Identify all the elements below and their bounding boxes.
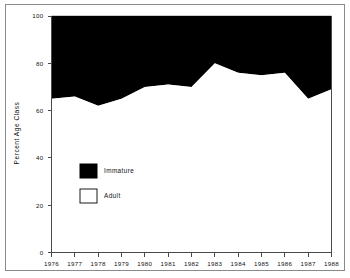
y-tick-label: 100 xyxy=(32,12,44,19)
x-tick-label: 1981 xyxy=(161,260,176,267)
legend-swatch-adult xyxy=(80,189,97,203)
x-tick-label: 1980 xyxy=(137,260,152,267)
y-tick-label: 20 xyxy=(36,202,44,209)
legend-label-adult: Adult xyxy=(104,192,121,199)
x-tick-label: 1978 xyxy=(91,260,106,267)
legend-swatch-immature xyxy=(80,164,97,178)
x-tick-label: 1985 xyxy=(254,260,269,267)
x-tick-label: 1979 xyxy=(114,260,129,267)
x-tick-label: 1986 xyxy=(277,260,292,267)
x-tick-labels: 1976197719781979198019811982198319841985… xyxy=(44,260,339,267)
y-tick-label: 0 xyxy=(40,249,44,256)
y-tick-label: 80 xyxy=(36,60,44,67)
x-tick-marks xyxy=(52,253,332,257)
x-tick-label: 1987 xyxy=(301,260,316,267)
y-axis-title: Percent Age Class xyxy=(13,101,21,164)
legend-label-immature: Immature xyxy=(104,167,134,174)
x-tick-label: 1988 xyxy=(324,260,339,267)
x-tick-label: 1977 xyxy=(67,260,82,267)
x-tick-label: 1983 xyxy=(207,260,222,267)
x-tick-label: 1982 xyxy=(184,260,199,267)
series-group xyxy=(52,16,332,253)
y-tick-labels: 020406080100 xyxy=(32,12,44,256)
y-tick-marks xyxy=(48,16,52,253)
plot-area: 020406080100 197619771978197919801981198… xyxy=(0,0,350,278)
x-tick-label: 1984 xyxy=(231,260,246,267)
y-tick-label: 60 xyxy=(36,107,44,114)
x-tick-label: 1976 xyxy=(44,260,59,267)
y-tick-label: 40 xyxy=(36,154,44,161)
chart-figure: 020406080100 197619771978197919801981198… xyxy=(0,0,350,278)
